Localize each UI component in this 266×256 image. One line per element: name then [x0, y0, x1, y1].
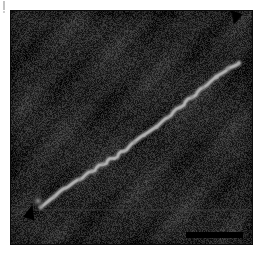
corner-artifact-dot: [3, 11, 5, 13]
micrograph-field: [11, 11, 252, 244]
figure-trim-bottom: [0, 245, 266, 256]
micrograph-panel: [11, 11, 252, 244]
corner-artifact-mark: [3, 1, 5, 10]
figure-trim-right: [253, 0, 266, 256]
scale-bar: [186, 232, 243, 238]
figure-root: [0, 0, 266, 256]
